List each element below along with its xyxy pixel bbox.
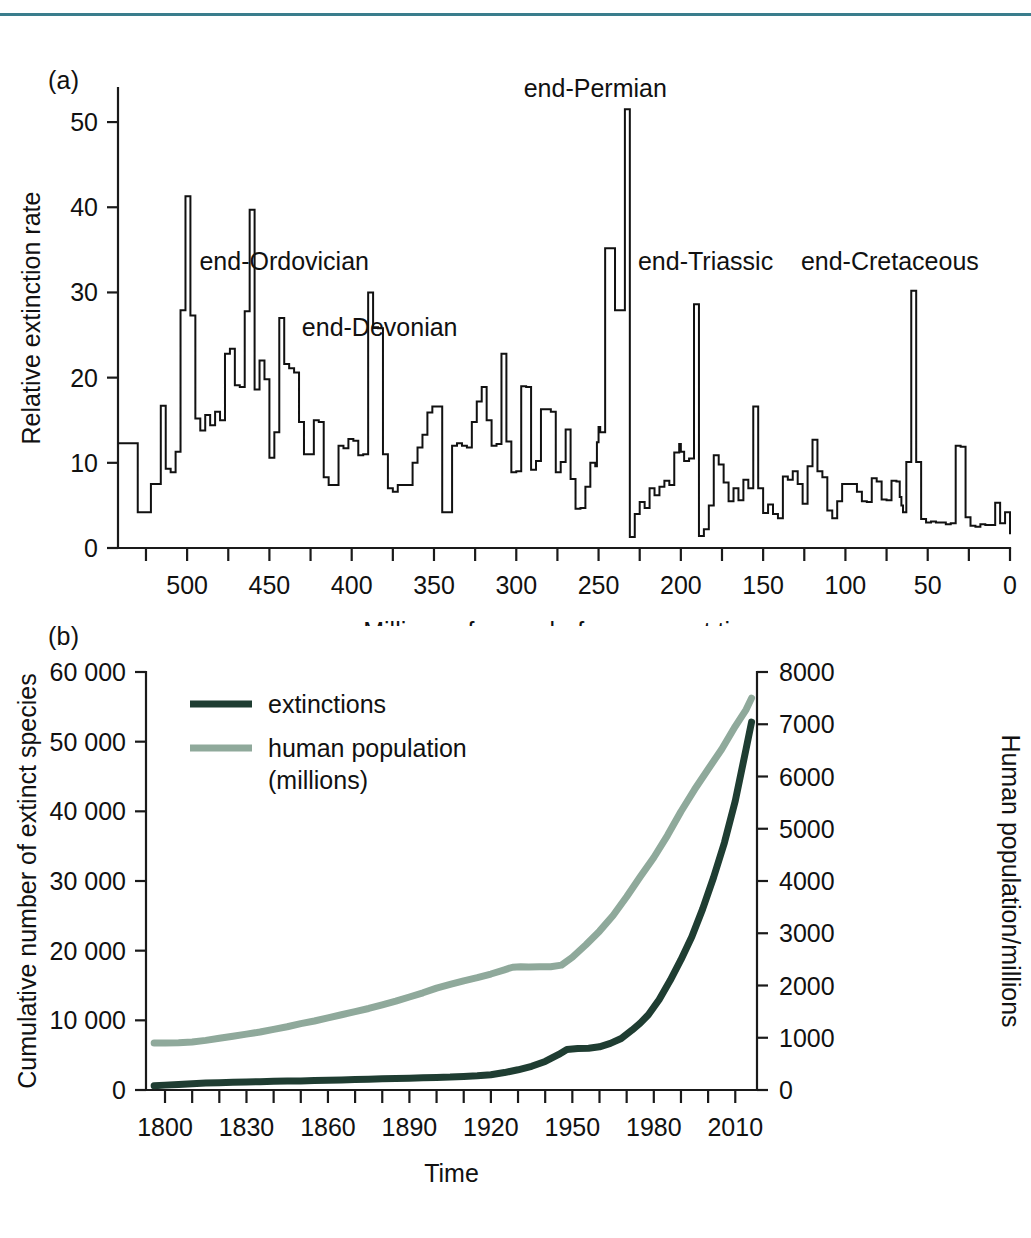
panel-a-x-tick-label: 300	[495, 571, 537, 599]
panel-a-annotation-end-permian: end-Permian	[524, 74, 667, 102]
panel-b-x-axis-title: Time	[424, 1159, 479, 1187]
legend-label-extinctions: extinctions	[268, 690, 386, 718]
panel-a-annotation-end-devonian: end-Devonian	[302, 313, 458, 341]
panel-b-svg: 010 00020 00030 00040 00050 00060 000010…	[0, 626, 1031, 1238]
panel-a-y-tick-label: 50	[70, 108, 98, 136]
panel-b-y2-tick-label: 7000	[779, 710, 835, 738]
panel-b-y-tick-label: 40 000	[50, 797, 126, 825]
panel-a-x-tick-label: 500	[166, 571, 208, 599]
panel-b-y2-tick-label: 4000	[779, 867, 835, 895]
panel-a-y-tick-label: 10	[70, 449, 98, 477]
panel-b-x-tick-label: 1860	[300, 1113, 356, 1141]
panel-b-y-tick-label: 10 000	[50, 1006, 126, 1034]
panel-a-y-axis-title: Relative extinction rate	[17, 192, 45, 445]
header-divider-rule	[0, 13, 1031, 16]
panel-b-y-tick-label: 50 000	[50, 728, 126, 756]
panel-b-x-tick-label: 1920	[463, 1113, 519, 1141]
panel-a-x-tick-label: 250	[578, 571, 620, 599]
panel-a-y-tick-label: 20	[70, 364, 98, 392]
panel-b-y2-tick-label: 8000	[779, 658, 835, 686]
panel-a-y-tick-label: 40	[70, 193, 98, 221]
panel-a-x-tick-label: 100	[825, 571, 867, 599]
panel-b-x-tick-label: 1830	[219, 1113, 275, 1141]
panel-b-y2-tick-label: 1000	[779, 1024, 835, 1052]
panel-b-y-tick-label: 60 000	[50, 658, 126, 686]
legend-label-human-population-millions-: human population	[268, 734, 467, 762]
panel-b-y2-tick-label: 3000	[779, 919, 835, 947]
panel-b-y2-tick-label: 5000	[779, 815, 835, 843]
panel-a-annotation-end-cretaceous: end-Cretaceous	[801, 247, 979, 275]
panel-b-y-tick-label: 0	[112, 1076, 126, 1104]
panel-a-y-tick-label: 30	[70, 278, 98, 306]
panel-a-x-tick-label: 0	[1003, 571, 1017, 599]
panel-b-x-tick-label: 1800	[137, 1113, 193, 1141]
panel-b-x-tick-label: 1890	[382, 1113, 438, 1141]
panel-b-y-tick-label: 20 000	[50, 937, 126, 965]
legend-label-human-population-millions-: (millions)	[268, 766, 368, 794]
panel-a-x-axis-title: Millions of years before present time	[363, 617, 765, 626]
panel-a-svg: 0102030405050045040035030025020015010050…	[0, 36, 1031, 626]
panel-a-x-tick-label: 350	[413, 571, 455, 599]
panel-b-y-axis-title: Cumulative number of extinct species	[13, 673, 41, 1088]
panel-a-x-tick-label: 150	[742, 571, 784, 599]
panel-b-x-tick-label: 2010	[707, 1113, 763, 1141]
panel-a-annotation-end-triassic: end-Triassic	[638, 247, 773, 275]
figure-page: (a) (b) 01020304050500450400350300250200…	[0, 0, 1031, 1238]
chart-panel-b-extinctions-population: 010 00020 00030 00040 00050 00060 000010…	[0, 626, 1031, 1238]
panel-b-y2-tick-label: 6000	[779, 763, 835, 791]
panel-b-y2-tick-label: 0	[779, 1076, 793, 1104]
panel-a-x-tick-label: 450	[249, 571, 291, 599]
panel-a-y-tick-label: 0	[84, 534, 98, 562]
panel-a-x-tick-label: 400	[331, 571, 373, 599]
panel-a-series-extinction-rate	[118, 109, 1010, 537]
panel-b-y2-tick-label: 2000	[779, 972, 835, 1000]
panel-a-x-tick-label: 200	[660, 571, 702, 599]
panel-b-y-tick-label: 30 000	[50, 867, 126, 895]
panel-b-x-tick-label: 1950	[545, 1113, 601, 1141]
panel-a-x-tick-label: 50	[914, 571, 942, 599]
panel-b-x-tick-label: 1980	[626, 1113, 682, 1141]
panel-b-y2-axis-title: Human population/millions	[997, 734, 1025, 1027]
chart-panel-a-extinction-rate: 0102030405050045040035030025020015010050…	[0, 36, 1031, 626]
panel-a-annotation-end-ordovician: end-Ordovician	[199, 247, 369, 275]
